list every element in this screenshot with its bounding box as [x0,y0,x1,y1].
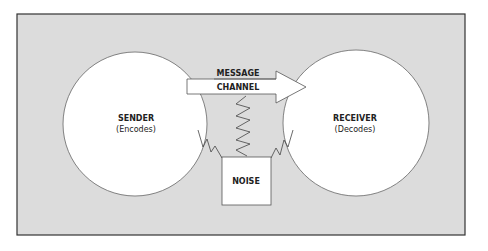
noise-label: NOISE [232,177,260,186]
sender-label: SENDER [118,114,154,123]
channel-label: CHANNEL [217,83,260,92]
sender-circle [63,52,207,196]
receiver-sublabel: (Decodes) [335,125,376,134]
message-label: MESSAGE [217,69,260,78]
receiver-circle [283,50,429,196]
receiver-label: RECEIVER [333,114,377,123]
sender-sublabel: (Encodes) [116,125,156,134]
communication-diagram: SENDER (Encodes) RECEIVER (Decodes) MESS… [0,0,488,251]
